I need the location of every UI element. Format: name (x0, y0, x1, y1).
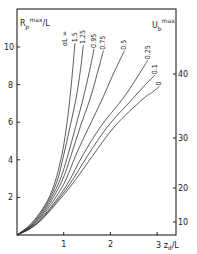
x-tick-label: 1 (61, 240, 66, 249)
y-tick-label: 4 (8, 156, 13, 165)
y-tick-label: 2 (8, 193, 13, 202)
y-axis-ticks: 246810 (4, 43, 20, 202)
right-tick-label: 20 (178, 184, 188, 193)
curve-alpha-0.5 (17, 51, 124, 235)
curve-alpha-0.95 (17, 49, 94, 235)
curve-labels: 1.51.250.950.750.50.250.10 (71, 30, 164, 85)
legend-title: αL = (61, 31, 69, 46)
curve-label: 0.75 (99, 36, 107, 50)
curve-label: 1.5 (71, 32, 79, 42)
curve-alpha-0.1 (17, 75, 155, 235)
curve-label: 0.25 (144, 45, 152, 59)
right-axis-ticks: 10203040 (173, 70, 188, 227)
curve-label: 0 (155, 81, 163, 85)
right-tick-label: 30 (178, 134, 188, 143)
right-tick-label: 10 (178, 218, 188, 227)
x-axis-title: 3 zd/L (156, 241, 179, 251)
right-tick-label: 40 (178, 70, 188, 79)
curve-alpha-1.25 (17, 45, 83, 235)
y-axis-title: Rpmax/L (20, 16, 50, 31)
y-tick-label: 10 (4, 43, 14, 52)
y-tick-label: 8 (8, 81, 13, 90)
curve-alpha-0.25 (17, 60, 148, 235)
curve-label: 1.25 (79, 30, 87, 44)
y-tick-label: 6 (8, 118, 13, 127)
curve-alpha-1.5 (17, 43, 75, 235)
right-axis-title: Ubmax (152, 17, 175, 32)
x-tick-label: 2 (108, 240, 113, 249)
chart: 12 246810 10203040 1.51.250.950.750.50.2… (0, 0, 197, 254)
curve-alpha-0 (17, 86, 159, 235)
curves (17, 43, 159, 235)
curve-label: 0.95 (90, 34, 98, 48)
curve-label: 0.5 (120, 40, 128, 50)
curve-label: 0.1 (151, 64, 159, 74)
